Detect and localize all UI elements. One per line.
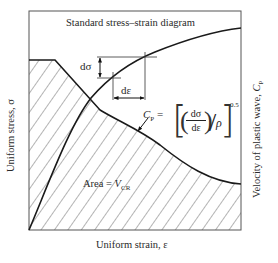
diagram-title: Standard stress–strain diagram: [66, 17, 195, 28]
cp-label: CP =: [143, 108, 163, 123]
exponent: 0.5: [230, 101, 239, 109]
cp-equation: [ ( dσ dε ) / ρ ] 0.5: [176, 104, 224, 144]
fraction-denominator: dε: [186, 121, 206, 134]
y2-label-text: Velocity of plastic wave,: [251, 92, 262, 198]
area-label: Area = VCR: [83, 178, 130, 192]
area-text: Area =: [83, 178, 115, 189]
y2-label-symbol: C: [251, 85, 262, 92]
y2-label-subscript: P: [257, 81, 265, 85]
fraction-numerator: dσ: [186, 108, 206, 121]
x-axis-label: Uniform strain, ε: [96, 239, 168, 250]
area-subscript: CR: [121, 184, 130, 192]
stress-strain-diagram: [0, 0, 278, 263]
cp-equals: =: [154, 108, 163, 120]
d-epsilon-label: dε: [121, 84, 131, 96]
fraction: dσ dε: [186, 108, 206, 134]
y-axis-label: Uniform stress, σ: [5, 99, 16, 172]
hatched-area-vcr: [29, 60, 241, 230]
d-sigma-label: dσ: [80, 60, 91, 72]
secondary-y-axis-label: Velocity of plastic wave, CP: [251, 81, 265, 198]
